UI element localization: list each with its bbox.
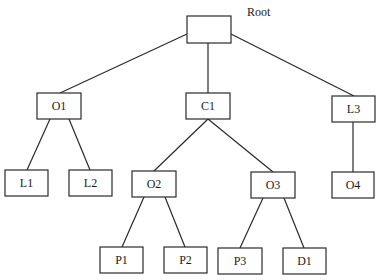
node-label: O3: [266, 178, 281, 192]
node-l3: L3: [332, 96, 375, 122]
node-l1: L1: [5, 170, 48, 196]
node-p3: P3: [218, 248, 262, 274]
node-p1: P1: [100, 247, 143, 273]
edge-o3-d1: [284, 198, 304, 248]
edge-o1-l1: [27, 119, 50, 170]
node-label: O4: [346, 178, 361, 192]
node-label: P1: [115, 253, 128, 267]
node-box: [187, 16, 231, 43]
node-label: L2: [84, 176, 97, 190]
edge-o2-p2: [165, 197, 185, 247]
edge-c1-o2: [154, 119, 208, 171]
edge-root-o1: [60, 34, 187, 93]
node-o3: O3: [251, 172, 295, 198]
node-label: L1: [20, 176, 33, 190]
node-label: P2: [179, 253, 192, 267]
node-o2: O2: [132, 171, 176, 197]
node-label: P3: [234, 254, 247, 268]
node-label: O2: [147, 177, 162, 191]
tree-edges: [27, 34, 354, 248]
edge-o2-p1: [122, 197, 144, 247]
node-o4: O4: [332, 172, 374, 198]
node-label: D1: [297, 254, 312, 268]
node-label: O1: [52, 99, 67, 113]
edge-c1-o3: [208, 119, 273, 172]
edge-o1-l2: [69, 119, 90, 170]
node-c1: C1: [186, 93, 230, 119]
node-root: [187, 16, 231, 43]
tree-diagram: O1C1L3L1L2O2O3O4P1P2P3D1 Root: [0, 0, 382, 280]
node-label: C1: [201, 99, 215, 113]
tree-nodes: O1C1L3L1L2O2O3O4P1P2P3D1: [5, 16, 375, 274]
node-l2: L2: [69, 170, 112, 196]
edge-root-l3: [231, 34, 354, 96]
node-p2: P2: [164, 247, 207, 273]
node-d1: D1: [283, 248, 326, 274]
edge-o3-p3: [240, 198, 263, 248]
node-label: L3: [347, 102, 360, 116]
root-caption: Root: [247, 5, 271, 19]
node-o1: O1: [37, 93, 81, 119]
